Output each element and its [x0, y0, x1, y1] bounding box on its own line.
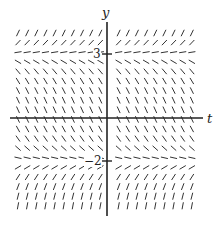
slope-segment	[15, 60, 21, 63]
slope-segment	[62, 126, 65, 132]
slope-segment	[71, 126, 74, 132]
slope-segment	[171, 166, 177, 169]
slope-segment	[72, 30, 75, 36]
tick-label-3: 3	[93, 48, 101, 60]
slope-segment	[16, 146, 21, 150]
slope-segment	[145, 88, 148, 94]
slope-segment	[25, 146, 30, 150]
slope-segment	[89, 174, 92, 179]
slope-segment	[180, 60, 186, 63]
slope-segment	[62, 174, 65, 179]
slope-segment	[182, 184, 184, 190]
slope-segment	[181, 69, 185, 74]
slope-segment	[172, 126, 175, 132]
y-axis-label: y	[102, 5, 109, 20]
slope-segment	[164, 203, 165, 209]
slope-segment	[35, 174, 38, 179]
t-axis-label: t	[207, 111, 212, 126]
slope-segment	[26, 107, 29, 113]
slope-segment	[54, 193, 56, 199]
slope-segment	[43, 60, 49, 63]
slope-field-diagram	[0, 0, 224, 225]
slope-segment	[154, 126, 157, 132]
slope-segment	[154, 174, 157, 179]
slope-segment	[145, 193, 147, 199]
slope-segment	[155, 203, 156, 209]
slope-segment	[190, 69, 194, 74]
slope-segment	[126, 126, 129, 132]
slope-segment	[126, 97, 129, 103]
slope-segment	[181, 126, 184, 132]
slope-segment	[61, 60, 67, 63]
slope-segment	[17, 184, 19, 190]
slope-segment	[62, 97, 65, 103]
slope-segment	[180, 52, 186, 53]
slope-segment	[80, 146, 85, 150]
slope-segment	[42, 157, 48, 158]
slope-segment	[135, 40, 139, 45]
slope-segment	[118, 203, 119, 209]
slope-segment	[125, 60, 131, 63]
slope-segment	[79, 60, 85, 63]
slope-segment	[17, 193, 19, 199]
slope-segment	[126, 40, 130, 45]
slope-segment	[62, 136, 66, 141]
slope-segment	[180, 166, 186, 169]
slope-segment	[136, 88, 139, 94]
slope-segment	[35, 88, 38, 94]
slope-segment	[98, 146, 103, 150]
slope-segment	[117, 107, 120, 113]
slope-segment	[118, 184, 120, 190]
slope-segment	[45, 193, 47, 199]
slope-segment	[44, 126, 47, 132]
slope-segment	[146, 203, 147, 209]
slope-segment	[135, 136, 139, 141]
slope-segment	[80, 136, 84, 141]
slope-segment	[163, 78, 166, 83]
slope-segment	[134, 52, 140, 53]
slope-segment	[24, 157, 30, 158]
slope-segment	[191, 193, 193, 199]
slope-segment	[189, 166, 195, 169]
slope-segment	[163, 107, 166, 113]
slope-segment	[134, 60, 140, 63]
slope-segment	[44, 107, 47, 113]
slope-segment	[189, 60, 195, 63]
slope-segment	[145, 97, 148, 103]
slope-segment	[172, 97, 175, 103]
slope-segment	[99, 184, 101, 190]
slope-segment	[136, 30, 139, 36]
slope-segment	[43, 40, 47, 45]
slope-segment	[71, 136, 75, 141]
slope-segment	[172, 78, 175, 83]
slope-segment	[117, 88, 120, 94]
slope-segment	[153, 146, 158, 150]
slope-segment	[180, 40, 184, 45]
slope-segment	[62, 88, 65, 94]
slope-segment	[24, 60, 30, 63]
slope-segment	[163, 97, 166, 103]
slope-segment	[16, 40, 20, 45]
slope-segment	[89, 40, 93, 45]
slope-segment	[99, 126, 102, 132]
slope-segment	[34, 146, 39, 150]
slope-segment	[62, 30, 65, 36]
slope-segment	[61, 52, 67, 53]
slope-segment	[53, 136, 57, 141]
slope-segment	[136, 184, 138, 190]
slope-segment	[191, 107, 194, 113]
slope-segment	[153, 136, 157, 141]
slope-segment	[70, 157, 76, 158]
slope-segment	[143, 60, 149, 63]
slope-segment	[51, 52, 57, 53]
slope-segment	[171, 60, 177, 63]
slope-segment	[99, 30, 102, 36]
slope-segment	[127, 203, 128, 209]
slope-segment	[27, 203, 28, 209]
slope-segment	[143, 157, 149, 158]
slope-segment	[126, 78, 129, 83]
slope-segment	[81, 203, 82, 209]
slope-segment	[172, 174, 175, 179]
slope-segment	[35, 126, 38, 132]
slope-segment	[154, 78, 157, 83]
